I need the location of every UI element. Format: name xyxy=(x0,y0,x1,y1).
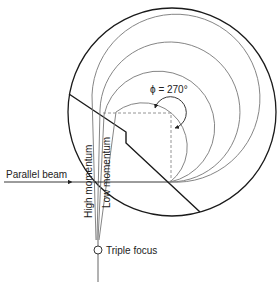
magnetic-spectrometer-diagram: Parallel beam ϕ = 270° High momentum Low… xyxy=(0,0,277,288)
focus-point-icon xyxy=(94,246,102,254)
focus-label: Triple focus xyxy=(106,245,157,256)
parallel-beam-label: Parallel beam xyxy=(6,169,67,180)
low-momentum-label: Low momentum xyxy=(101,137,112,208)
trajectory-1 xyxy=(92,14,260,240)
angle-label: ϕ = 270° xyxy=(150,84,188,95)
magnet-outline-circle xyxy=(68,8,276,216)
high-momentum-label: High momentum xyxy=(83,145,94,218)
trajectories xyxy=(92,14,260,240)
